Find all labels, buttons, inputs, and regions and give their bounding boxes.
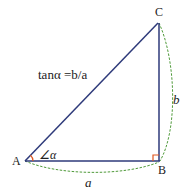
- side-b-label: b: [173, 93, 180, 106]
- side-a-label: a: [85, 176, 92, 189]
- vertex-label-b: B: [158, 164, 166, 176]
- side-a-dashed-arc: [25, 161, 159, 172]
- side-b-dashed-arc: [159, 23, 173, 161]
- vertex-label-c: C: [155, 6, 163, 18]
- right-angle-marker: [153, 155, 159, 161]
- angle-alpha-arc: [31, 155, 34, 161]
- right-triangle-diagram: C A B tanα =b/a ∠α b a: [0, 0, 189, 194]
- angle-alpha-label: ∠α: [39, 149, 56, 161]
- hypotenuse-AC: [25, 23, 158, 161]
- tangent-formula: tanα =b/a: [38, 68, 87, 81]
- vertex-label-a: A: [12, 155, 21, 167]
